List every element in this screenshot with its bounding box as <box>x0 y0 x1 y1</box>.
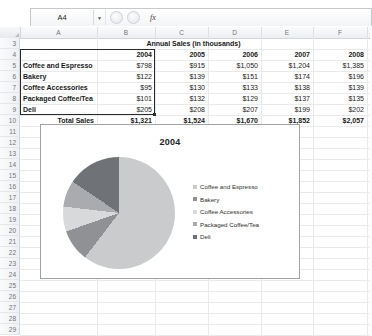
select-all-corner[interactable] <box>0 27 21 38</box>
chart-legend: Coffee and EspressoBakeryCoffee Accessor… <box>193 183 259 240</box>
row-header-6[interactable]: 6 <box>0 71 20 82</box>
legend-label: Bakery <box>200 196 219 203</box>
row-header-16[interactable]: 16 <box>0 181 20 192</box>
row-header-27[interactable]: 27 <box>0 302 20 313</box>
legend-swatch-icon <box>193 210 197 214</box>
cancel-icon[interactable] <box>110 11 123 24</box>
cell-value-7-5[interactable]: $139 <box>313 82 367 93</box>
column-header-d[interactable]: D <box>208 27 262 38</box>
row-header-14[interactable]: 14 <box>0 159 20 170</box>
chevron-down-icon[interactable]: ▼ <box>94 10 106 25</box>
cell-value-8-5[interactable]: $135 <box>313 93 367 104</box>
row-header-7[interactable]: 7 <box>0 82 20 93</box>
row-header-13[interactable]: 13 <box>0 148 20 159</box>
row-header-23[interactable]: 23 <box>0 258 20 269</box>
row-header-9[interactable]: 9 <box>0 104 20 115</box>
column-header-f[interactable]: F <box>313 27 368 38</box>
row-header-3[interactable]: 3 <box>0 38 20 49</box>
column-header-e[interactable]: E <box>261 27 314 38</box>
cell-total-5[interactable]: $2,057 <box>313 115 367 126</box>
row-header-4[interactable]: 4 <box>0 49 20 60</box>
row-header-29[interactable]: 29 <box>0 324 20 335</box>
legend-label: Deli <box>200 233 211 240</box>
row-header-8[interactable]: 8 <box>0 93 20 104</box>
legend-item-4[interactable]: Deli <box>193 233 259 240</box>
column-header-a[interactable]: A <box>20 27 98 38</box>
row-header-24[interactable]: 24 <box>0 269 20 280</box>
selection-rectangle <box>20 49 155 115</box>
legend-label: Packaged Coffee/Tea <box>200 221 259 228</box>
chart-title: 2004 <box>41 137 299 147</box>
formula-bar-buttons: fx <box>106 11 156 24</box>
name-box[interactable]: A4 <box>31 10 94 25</box>
cell-value-7-3[interactable]: $133 <box>208 82 261 93</box>
enter-icon[interactable] <box>127 11 140 24</box>
row-header-21[interactable]: 21 <box>0 236 20 247</box>
cell-value-6-2[interactable]: $139 <box>155 71 208 82</box>
legend-swatch-icon <box>193 197 197 201</box>
legend-item-0[interactable]: Coffee and Espresso <box>193 183 259 190</box>
pie-chart-object[interactable]: 2004 Coffee and EspressoBakeryCoffee Acc… <box>40 124 300 279</box>
fx-icon[interactable]: fx <box>144 13 156 22</box>
legend-item-1[interactable]: Bakery <box>193 196 259 203</box>
row-header-17[interactable]: 17 <box>0 192 20 203</box>
cell-year-2006[interactable]: 2006 <box>208 49 261 60</box>
row-header-12[interactable]: 12 <box>0 137 20 148</box>
row-header-15[interactable]: 15 <box>0 170 20 181</box>
cell-value-7-4[interactable]: $138 <box>261 82 313 93</box>
row-header-22[interactable]: 22 <box>0 247 20 258</box>
legend-label: Coffee Accessories <box>200 208 253 215</box>
legend-swatch-icon <box>193 235 197 239</box>
cell-value-5-4[interactable]: $1,204 <box>261 60 313 71</box>
cell-value-5-2[interactable]: $915 <box>155 60 208 71</box>
cell-value-9-4[interactable]: $199 <box>261 104 313 115</box>
formula-bar: A4 ▼ fx <box>30 8 372 26</box>
row-header-26[interactable]: 26 <box>0 291 20 302</box>
cell-year-2005[interactable]: 2005 <box>155 49 208 60</box>
legend-swatch-icon <box>193 185 197 189</box>
cell-value-8-2[interactable]: $132 <box>155 93 208 104</box>
cell-value-9-5[interactable]: $202 <box>313 104 367 115</box>
row-header-25[interactable]: 25 <box>0 280 20 291</box>
legend-item-2[interactable]: Coffee Accessories <box>193 208 259 215</box>
row-header-18[interactable]: 18 <box>0 203 20 214</box>
cell-value-5-3[interactable]: $1,050 <box>208 60 261 71</box>
selection-fill-handle[interactable] <box>153 113 156 116</box>
spreadsheet-grid[interactable]: ABCDEF 345678910111213141516171819202122… <box>0 27 370 314</box>
cell-title-annual-sales[interactable]: Annual Sales (in thousands) <box>20 38 367 49</box>
cell-value-5-5[interactable]: $1,385 <box>313 60 367 71</box>
cell-value-6-4[interactable]: $174 <box>261 71 313 82</box>
legend-item-3[interactable]: Packaged Coffee/Tea <box>193 221 259 228</box>
legend-label: Coffee and Espresso <box>200 183 258 190</box>
row-header-5[interactable]: 5 <box>0 60 20 71</box>
row-header-10[interactable]: 10 <box>0 115 20 126</box>
cell-value-9-2[interactable]: $208 <box>155 104 208 115</box>
row-header-11[interactable]: 11 <box>0 126 20 137</box>
cell-value-7-2[interactable]: $130 <box>155 82 208 93</box>
row-header-28[interactable]: 28 <box>0 313 20 324</box>
legend-swatch-icon <box>193 222 197 226</box>
cell-year-2008[interactable]: 2008 <box>313 49 367 60</box>
cell-value-6-5[interactable]: $196 <box>313 71 367 82</box>
column-header-b[interactable]: B <box>97 27 156 38</box>
column-header-c[interactable]: C <box>155 27 209 38</box>
pie-graphic[interactable] <box>63 157 175 269</box>
cell-value-8-3[interactable]: $129 <box>208 93 261 104</box>
row-header-19[interactable]: 19 <box>0 214 20 225</box>
formula-input[interactable] <box>156 10 371 25</box>
row-header-20[interactable]: 20 <box>0 225 20 236</box>
cell-year-2007[interactable]: 2007 <box>261 49 313 60</box>
cell-value-6-3[interactable]: $151 <box>208 71 261 82</box>
cell-value-9-3[interactable]: $207 <box>208 104 261 115</box>
cell-value-8-4[interactable]: $137 <box>261 93 313 104</box>
